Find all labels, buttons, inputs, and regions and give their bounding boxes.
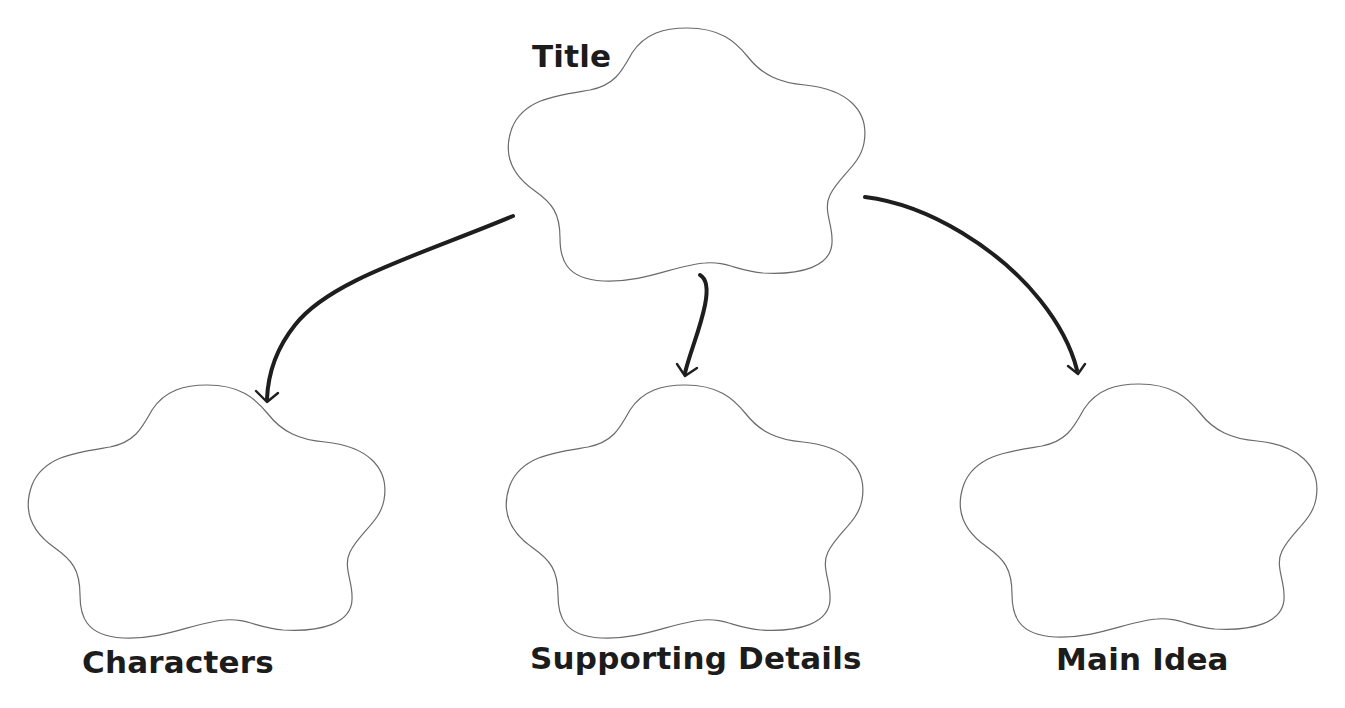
characters-cloud[interactable] bbox=[28, 385, 385, 638]
supporting-details-cloud[interactable] bbox=[506, 385, 863, 638]
main-idea-label: Main Idea bbox=[1056, 644, 1229, 675]
supporting-details-label: Supporting Details bbox=[530, 643, 862, 674]
diagram-canvas bbox=[0, 0, 1345, 708]
main-idea-cloud[interactable] bbox=[960, 384, 1317, 637]
characters-label: Characters bbox=[82, 647, 274, 678]
arrow-to-characters bbox=[256, 216, 513, 402]
arrow-to-main-idea bbox=[865, 197, 1085, 374]
arrow-to-supporting-details bbox=[677, 275, 707, 376]
title-label: Title bbox=[532, 41, 611, 72]
